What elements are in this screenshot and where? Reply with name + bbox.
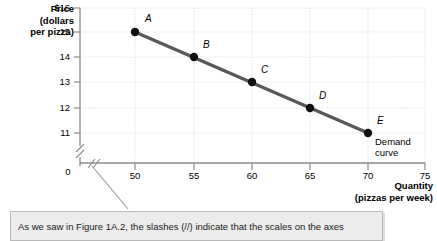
data-point-b — [190, 53, 198, 61]
data-point-d — [306, 104, 314, 112]
point-label-d: D — [319, 90, 326, 101]
point-label-a: A — [145, 13, 152, 24]
x-axis-title-line1: Quantity — [394, 180, 433, 191]
y-tick-label-14: 14 — [40, 51, 70, 62]
caption-text: As we saw in Figure 1A.2, the slashes (/… — [18, 221, 378, 232]
data-point-a — [131, 28, 139, 36]
y-tick-label-13: 13 — [40, 76, 70, 87]
demand-curve-label-line2: curve — [375, 147, 398, 158]
x-axis-ticks — [135, 163, 425, 170]
origin-label: 0 — [58, 166, 78, 177]
x-tick-label-55: 55 — [179, 170, 209, 181]
data-point-e — [364, 129, 372, 137]
point-label-e: E — [377, 115, 384, 126]
x-tick-label-70: 70 — [353, 170, 383, 181]
x-axis-title-line2: (pizzas per week) — [355, 192, 433, 203]
y-tick-label-15: 15 — [40, 26, 70, 37]
point-label-c: C — [261, 64, 268, 75]
y-tick-label-11: 11 — [40, 127, 70, 138]
y-axis-title-line2: (dollars — [40, 15, 74, 26]
y-axis-break-icon — [76, 144, 84, 158]
x-tick-label-65: 65 — [295, 170, 325, 181]
y-tick-label-16: $16 — [40, 2, 70, 13]
demand-curve-label: Demand curve — [375, 136, 411, 158]
y-axis-ticks — [74, 8, 80, 133]
x-tick-label-75: 75 — [410, 170, 437, 181]
x-tick-label-50: 50 — [120, 170, 150, 181]
x-tick-label-60: 60 — [237, 170, 267, 181]
y-tick-label-12: 12 — [40, 102, 70, 113]
point-label-b: B — [203, 39, 210, 50]
x-axis-title: Quantity (pizzas per week) — [300, 180, 433, 203]
data-point-c — [248, 78, 256, 86]
demand-curve-label-line1: Demand — [375, 136, 411, 147]
